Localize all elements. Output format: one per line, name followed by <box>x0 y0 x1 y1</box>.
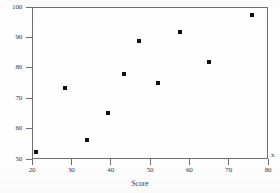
x-axis-tick <box>189 159 190 165</box>
scatter-plot-figure: 5060708090100 20304050607080 Score x <box>0 0 280 193</box>
x-axis-tick-label: 20 <box>19 167 45 174</box>
x-axis-tick <box>32 159 33 165</box>
data-point <box>34 150 38 154</box>
data-point <box>63 86 67 90</box>
y-axis-tick-label: 100 <box>0 4 22 11</box>
data-point <box>156 81 160 85</box>
x-axis-tick-label: 30 <box>58 167 84 174</box>
x-axis-tick <box>268 159 269 165</box>
x-axis-tick <box>71 159 72 165</box>
data-point <box>85 138 89 142</box>
x-axis-tick-label: 70 <box>216 167 242 174</box>
x-axis-tick <box>150 159 151 165</box>
x-axis-tick <box>228 159 229 165</box>
x-axis-tick-label: 60 <box>176 167 202 174</box>
data-point <box>137 39 141 43</box>
y-axis-tick-label: 70 <box>0 95 22 102</box>
data-point <box>207 60 211 64</box>
x-axis-tick-label: 50 <box>137 167 163 174</box>
x-axis-tick <box>110 159 111 165</box>
y-axis-tick-label: 80 <box>0 64 22 71</box>
data-area <box>32 7 268 159</box>
data-point <box>178 30 182 34</box>
data-point <box>122 72 126 76</box>
x-variable-marker: x <box>271 152 275 159</box>
x-axis-tick-label: 40 <box>98 167 124 174</box>
y-axis-tick-label: 60 <box>0 125 22 132</box>
x-axis-tick-label: 80 <box>255 167 280 174</box>
data-point <box>250 13 254 17</box>
y-axis-tick-label: 90 <box>0 34 22 41</box>
x-axis-title: Score <box>0 180 280 188</box>
data-point <box>106 111 110 115</box>
y-axis-tick-label: 50 <box>0 156 22 163</box>
